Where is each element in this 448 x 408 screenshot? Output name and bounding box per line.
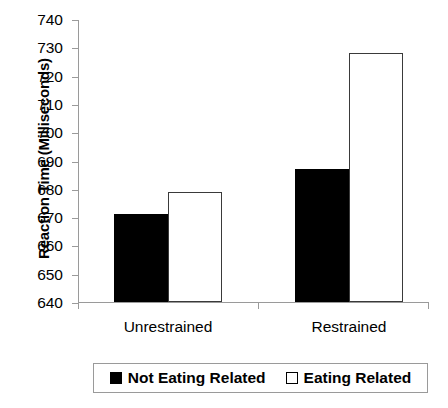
y-axis-tick	[72, 77, 78, 78]
open-square-icon	[286, 372, 298, 384]
bar-restrained-eating-related	[349, 53, 403, 302]
plot-area	[78, 20, 428, 303]
bar-unrestrained-eating-related	[168, 192, 222, 302]
chart-figure: Reaction Time (Milliseconds) 64065066067…	[0, 0, 448, 408]
filled-square-icon	[110, 372, 122, 384]
y-axis-tick	[72, 20, 78, 21]
y-axis-tick	[72, 218, 78, 219]
x-axis-category-label: Unrestrained	[94, 318, 242, 336]
y-axis-tick	[72, 105, 78, 106]
y-axis-tick-label: 640	[37, 295, 63, 311]
legend-item-eating-related: Eating Related	[286, 369, 412, 387]
y-axis-tick	[72, 48, 78, 49]
y-axis-tick-label: 670	[37, 210, 63, 226]
y-axis-tick	[72, 162, 78, 163]
bar-restrained-not-eating-related	[295, 169, 349, 302]
y-axis-line	[78, 20, 79, 303]
legend-label: Eating Related	[304, 369, 412, 387]
y-axis-tick-labels: 640650660670680690700710720730740	[0, 20, 72, 303]
y-axis-tick-label: 680	[37, 182, 63, 198]
chart-legend: Not Eating Related Eating Related	[93, 363, 428, 393]
legend-label: Not Eating Related	[128, 369, 266, 387]
y-axis-tick-label: 690	[37, 154, 63, 170]
y-axis-tick-label: 720	[37, 69, 63, 85]
y-axis-tick	[72, 133, 78, 134]
y-axis-tick	[72, 246, 78, 247]
y-axis-tick-label: 730	[37, 41, 63, 57]
x-axis-tick	[258, 302, 259, 309]
y-axis-tick-label: 710	[37, 97, 63, 113]
bar-unrestrained-not-eating-related	[114, 214, 168, 302]
y-axis-tick	[72, 275, 78, 276]
y-axis-tick-label: 700	[37, 125, 63, 141]
y-axis-tick	[72, 190, 78, 191]
y-axis-tick-label: 740	[37, 12, 63, 28]
x-axis-tick	[78, 302, 79, 309]
legend-item-not-eating-related: Not Eating Related	[110, 369, 266, 387]
x-axis-category-label: Restrained	[275, 318, 423, 336]
y-axis-tick-label: 650	[37, 267, 63, 283]
x-axis-tick	[428, 302, 429, 309]
y-axis-tick-label: 660	[37, 239, 63, 255]
x-axis-line	[78, 302, 428, 303]
